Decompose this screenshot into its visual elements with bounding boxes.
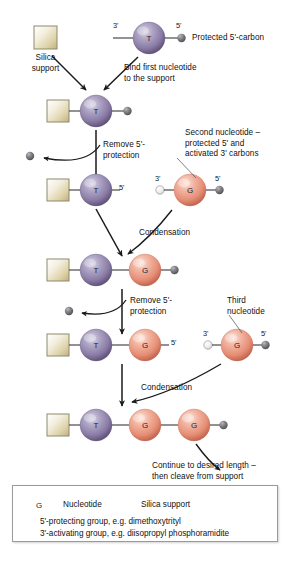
legend-nucleotide-letter: G bbox=[31, 501, 47, 510]
prime-label-3-row5: 3' bbox=[203, 330, 209, 338]
prime-label-3-row1: 3' bbox=[113, 22, 119, 30]
nucleotide-letter-T: T bbox=[88, 266, 104, 275]
nucleotide-letter-G: G bbox=[137, 421, 153, 430]
nucleotide-letter-T: T bbox=[88, 186, 104, 195]
label-third-nucleotide: Third nucleotide bbox=[227, 296, 265, 317]
nucleotide-letter-G: G bbox=[229, 341, 245, 350]
arrow-chain-to-condense-1 bbox=[96, 209, 122, 256]
label-remove-protection-1: Remove 5'- protection bbox=[103, 140, 145, 161]
label-continue-cleave: Continue to desired length – then cleave… bbox=[152, 461, 256, 482]
nucleotide-letter-T: T bbox=[88, 107, 104, 116]
label-condensation-2: Condensation bbox=[141, 383, 192, 394]
protecting-group-row1 bbox=[177, 34, 185, 42]
removed-protecting-group-1 bbox=[26, 152, 34, 160]
nucleotide-letter-G: G bbox=[137, 341, 153, 350]
prime-label-5-row1: 5' bbox=[176, 22, 182, 30]
nucleotide-letter-G: G bbox=[186, 421, 202, 430]
protecting-group-row2 bbox=[123, 107, 131, 115]
nucleotide-letter-T: T bbox=[88, 341, 104, 350]
prime-label-5-row3: 5' bbox=[215, 175, 221, 183]
label-remove-protection-2: Remove 5'- protection bbox=[130, 296, 172, 317]
removed-protecting-group-2 bbox=[65, 307, 73, 315]
diagram-canvas: T T T G T G T G G T G G 3' 5' 5' 3' 5' 5… bbox=[0, 0, 291, 578]
protecting-group-row5 bbox=[261, 341, 269, 349]
protecting-group-row4 bbox=[170, 266, 178, 274]
nucleotide-letter-T: T bbox=[88, 421, 104, 430]
arrow-remove-protection-2 bbox=[82, 300, 126, 314]
label-condensation-1: Condensation bbox=[139, 228, 190, 239]
prime-label-5-row5-chain: 5' bbox=[171, 339, 177, 347]
legend-nucleotide-label: Nucleotide bbox=[63, 500, 102, 510]
prime-label-5-row5: 5' bbox=[261, 330, 267, 338]
silica-support-row4 bbox=[47, 259, 69, 281]
silica-support-free bbox=[34, 26, 57, 49]
activating-group-row3 bbox=[156, 186, 164, 194]
label-bind-first-nucleotide: Bind first nucleotide to the support bbox=[124, 63, 197, 84]
label-silica-support: Silica support bbox=[13, 53, 78, 74]
nucleotide-letter-G: G bbox=[182, 186, 198, 195]
protecting-group-row3 bbox=[215, 186, 223, 194]
silica-support-row6 bbox=[47, 414, 69, 436]
activating-group-row5 bbox=[204, 341, 212, 349]
label-second-nucleotide: Second nucleotide – protected 5' and act… bbox=[185, 128, 260, 160]
nucleotide-letter-T: T bbox=[141, 34, 157, 43]
nucleotide-letter-G: G bbox=[137, 266, 153, 275]
silica-support-row5 bbox=[47, 334, 69, 356]
arrow-remove-protection-1 bbox=[44, 145, 100, 160]
protecting-group-row6 bbox=[219, 421, 227, 429]
prime-label-5-row3-chain: 5' bbox=[119, 184, 125, 192]
legend-protecting-label: 5'-protecting group, e.g. dimethoxytrity… bbox=[40, 517, 181, 527]
label-protected-5-carbon: Protected 5'-carbon bbox=[192, 33, 264, 44]
silica-support-row2 bbox=[47, 100, 69, 122]
legend-activating-label: 3'-activating group, e.g. diisopropyl ph… bbox=[40, 529, 229, 539]
prime-label-3-row3: 3' bbox=[155, 175, 161, 183]
legend-silica-label: Silica support bbox=[141, 500, 190, 510]
silica-support-row3 bbox=[47, 179, 69, 201]
